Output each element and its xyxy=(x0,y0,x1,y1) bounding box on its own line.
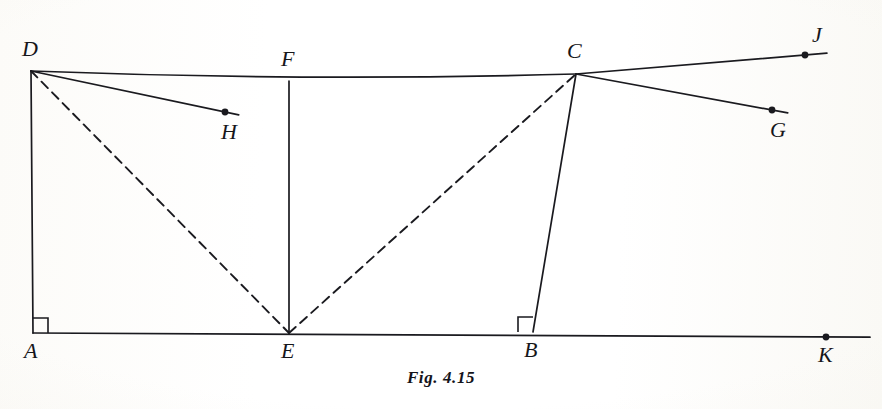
geometry-diagram xyxy=(0,0,882,409)
point-dot-h xyxy=(222,109,229,116)
dashed-line-group xyxy=(31,71,576,333)
point-label-j: J xyxy=(812,24,822,46)
diagonal-e-to-c xyxy=(289,74,576,333)
base-a-to-k xyxy=(33,333,870,337)
point-label-d: D xyxy=(22,38,38,60)
point-dot-g xyxy=(769,107,776,114)
point-label-f: F xyxy=(281,48,294,70)
right-angle-group xyxy=(33,317,533,333)
ray-c-to-g xyxy=(576,74,788,113)
right-angle-at-b xyxy=(518,317,533,332)
point-label-h: H xyxy=(221,121,237,143)
diagonal-d-to-e xyxy=(31,71,289,333)
point-dot-group xyxy=(222,52,830,341)
right-edge-c-to-b xyxy=(533,74,576,332)
point-label-k: K xyxy=(818,344,833,366)
point-dot-j xyxy=(802,52,809,59)
point-label-c: C xyxy=(567,40,582,62)
point-dot-k xyxy=(823,334,830,341)
point-label-b: B xyxy=(524,339,537,361)
point-label-a: A xyxy=(24,340,37,362)
top-edge-d-to-c xyxy=(31,71,576,77)
solid-line-group xyxy=(31,53,870,337)
ray-d-to-h xyxy=(31,71,239,115)
left-edge-d-to-a xyxy=(31,71,33,333)
ray-c-to-j xyxy=(576,53,827,74)
point-label-e: E xyxy=(281,340,294,362)
figure-container: ABCDEFGHJK Fig. 4.15 xyxy=(0,0,882,409)
point-label-g: G xyxy=(770,119,786,141)
right-angle-at-a xyxy=(33,318,48,333)
figure-caption: Fig. 4.15 xyxy=(0,368,882,388)
